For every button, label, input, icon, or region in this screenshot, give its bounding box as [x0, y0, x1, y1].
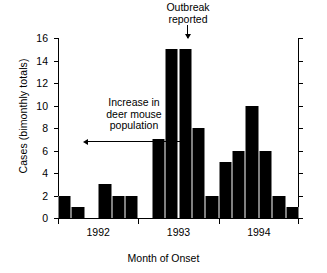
right-axis-tick — [299, 38, 303, 39]
x-axis-tick — [58, 219, 59, 224]
bar — [152, 139, 165, 218]
down-arrow-icon — [187, 25, 188, 38]
bar — [98, 184, 111, 218]
bar — [219, 162, 232, 218]
annotation-outbreak-reported: Outbreak reported — [142, 2, 234, 25]
x-axis-tick — [138, 219, 139, 224]
y-axis-label: Cases (bimonthly totals) — [17, 26, 29, 206]
y-axis-tick: 10 — [54, 106, 58, 107]
bar — [71, 207, 84, 218]
annotation-outbreak-line1: Outbreak — [142, 2, 234, 14]
arrow-head-left-icon — [83, 139, 88, 145]
right-axis-tick — [299, 173, 303, 174]
y-axis-tick-label: 16 — [8, 33, 48, 44]
y-axis-tick-label: 2 — [8, 191, 48, 202]
x-axis-spine — [58, 218, 299, 219]
bar — [179, 49, 192, 218]
y-axis-tick-label: 14 — [8, 56, 48, 67]
bar — [192, 128, 205, 218]
right-axis-tick — [299, 151, 303, 152]
y-axis-tick-label: 8 — [8, 123, 48, 134]
y-axis-tick: 14 — [54, 61, 58, 62]
y-axis-tick: 6 — [54, 151, 58, 152]
x-axis-tick-label: 1993 — [149, 226, 209, 238]
y-axis-tick: 4 — [54, 173, 58, 174]
x-axis-tick-label: 1992 — [68, 226, 128, 238]
bar — [165, 49, 178, 218]
bar — [245, 106, 258, 219]
arrow-head-right-icon — [180, 139, 185, 145]
y-axis-tick-label: 6 — [8, 146, 48, 157]
y-axis-tick-label: 10 — [8, 101, 48, 112]
annotation-deer-mouse-population: Increase in deer mouse population — [84, 97, 184, 132]
bar — [272, 196, 285, 219]
bar — [112, 196, 125, 219]
bar — [58, 196, 71, 219]
y-axis-tick-label: 12 — [8, 78, 48, 89]
y-axis-tick-label: 0 — [8, 213, 48, 224]
bar — [232, 151, 245, 219]
right-axis-tick — [299, 83, 303, 84]
x-axis-tick — [219, 219, 220, 224]
right-axis-tick — [299, 128, 303, 129]
bar — [259, 151, 272, 219]
y-axis-tick: 12 — [54, 83, 58, 84]
x-axis-label: Month of Onset — [0, 252, 327, 264]
y-axis-tick: 16 — [54, 38, 58, 39]
bar — [125, 196, 138, 219]
y-axis-spine — [58, 38, 59, 219]
right-axis-tick — [299, 106, 303, 107]
annotation-outbreak-line2: reported — [142, 14, 234, 26]
annotation-increase-line3: population — [84, 120, 184, 132]
double-headed-arrow-icon — [87, 141, 181, 142]
y-axis-tick-label: 4 — [8, 168, 48, 179]
right-axis-tick — [299, 218, 303, 219]
hantavirus-cases-bar-chart: Cases (bimonthly totals) 0246810121416 1… — [0, 0, 327, 273]
y-axis-tick: 8 — [54, 128, 58, 129]
x-axis-tick-label: 1994 — [229, 226, 289, 238]
bar — [286, 207, 299, 218]
bar — [205, 196, 218, 219]
right-axis-tick — [299, 196, 303, 197]
x-axis-tick — [298, 219, 299, 224]
right-axis-tick — [299, 61, 303, 62]
annotation-increase-line1: Increase in — [84, 97, 184, 109]
